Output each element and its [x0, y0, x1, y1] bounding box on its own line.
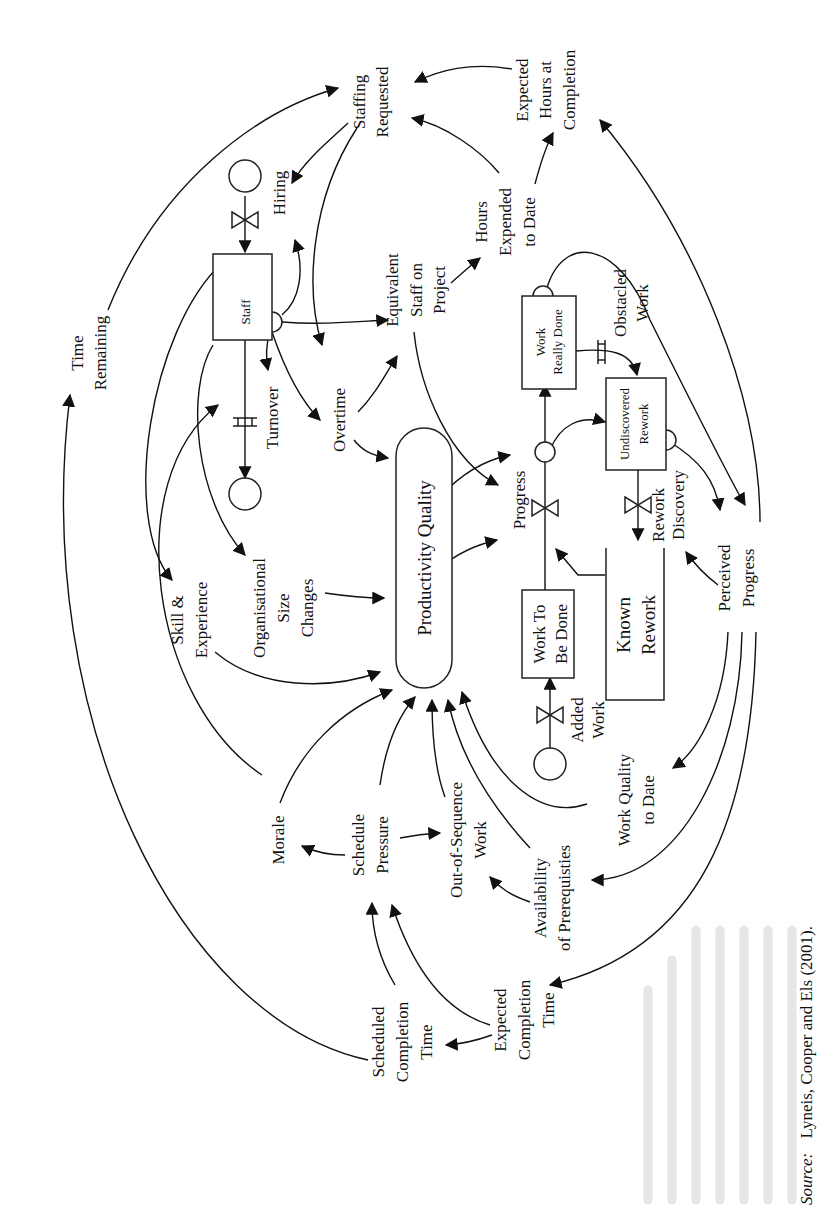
undiscovered-rework-label-1: Undiscovered — [617, 387, 632, 460]
rework-label: Rework — [649, 488, 668, 542]
obstacled-work-label-2: Work — [633, 284, 652, 322]
schedule-pressure-label-2: Pressure — [373, 816, 392, 874]
work-really-done-label-1: Work — [533, 327, 548, 356]
expected-completion-label-2: Completion — [515, 979, 534, 1060]
expected-hours-label-3: Completion — [560, 49, 579, 130]
figure-source-caption: Source: Lyneis, Cooper and Els (2001). — [797, 926, 816, 1205]
hiring-source-cloud-icon — [229, 160, 261, 192]
work-to-be-done-label-1: Work To — [530, 605, 549, 664]
source-label: Source: — [797, 1153, 816, 1205]
skill-experience-label-2: Experience — [192, 582, 211, 658]
hours-expended-label-3: to Date — [520, 197, 539, 247]
scheduled-completion-label-3: Time — [417, 1024, 436, 1059]
svg-text:Source: Lyneis, Cooper a: Source: Lyneis, Cooper and Els (2001). — [797, 926, 816, 1205]
expected-hours-label-2: Hours at — [536, 61, 555, 119]
progress-label: Progress — [510, 471, 529, 530]
discovery-label: Discovery — [669, 470, 688, 540]
work-to-be-done-label-2: Be Done — [552, 604, 571, 664]
equivalent-staff-label-3: Project — [430, 266, 449, 314]
org-size-label-2: Size — [274, 593, 293, 622]
undiscovered-rework-label-2: Rework — [636, 403, 651, 445]
scheduled-completion-label-2: Completion — [393, 1001, 412, 1082]
known-rework-label-2: Rework — [638, 594, 659, 655]
turnover-label: Turnover — [263, 386, 282, 449]
out-of-sequence-label-1: Out-of-Sequence — [447, 782, 466, 898]
staffing-requested-label-2: Requested — [373, 66, 392, 137]
obstacled-work-label-1: Obstacled — [611, 269, 630, 337]
time-remaining-label-2: Remaining — [91, 315, 110, 390]
scheduled-completion-label-1: Scheduled — [369, 1006, 388, 1077]
obstacled-work-valve-icon — [598, 340, 605, 364]
equivalent-staff-label-1: Equivalent — [383, 253, 402, 327]
staff-label: Staff — [238, 299, 253, 325]
hours-expended-label-2: Expended — [496, 188, 515, 256]
added-work-source-cloud-icon — [534, 748, 566, 780]
expected-completion-label-3: Time — [539, 992, 558, 1027]
known-rework-label-1: Known — [613, 597, 634, 653]
progress-converter-icon — [535, 442, 555, 462]
time-remaining-label-1: Time — [68, 335, 87, 370]
skill-experience-label-1: Skill & — [168, 595, 187, 645]
org-size-label-3: Changes — [298, 579, 317, 638]
morale-label: Morale — [269, 815, 288, 864]
work-really-done-label-2: Really Done — [550, 309, 565, 375]
perceived-progress-label-2: Progress — [739, 549, 758, 608]
show-through-text — [648, 930, 792, 1200]
work-really-done-stock — [522, 296, 576, 389]
stock-flow-diagram: Staff Work Really Done Undiscovered Rewo… — [0, 0, 820, 1212]
availability-label-1: Availability — [531, 858, 550, 938]
staff-stock — [213, 254, 272, 340]
staffing-requested-label-1: Staffing — [350, 74, 369, 129]
expected-hours-label-1: Expected — [513, 58, 532, 122]
expected-completion-label-1: Expected — [491, 988, 510, 1052]
schedule-pressure-label-1: Schedule — [349, 814, 368, 876]
hours-expended-label-1: Hours — [472, 201, 491, 243]
work-quality-label-1: Work Quality — [615, 753, 634, 846]
hiring-label: Hiring — [270, 170, 289, 215]
productivity-quality-label: Productivity Quality — [414, 480, 435, 636]
overtime-label: Overtime — [330, 388, 349, 452]
availability-label-2: of Prerequisties — [555, 845, 574, 951]
equivalent-staff-label-2: Staff on — [407, 263, 426, 317]
turnover-sink-cloud-icon — [229, 478, 261, 510]
out-of-sequence-label-2: Work — [471, 821, 490, 859]
perceived-progress-label-1: Perceived — [715, 544, 734, 612]
org-size-label-1: Organisational — [250, 558, 269, 658]
added-work-label-2: Work — [589, 701, 608, 739]
added-work-label-1: Added — [568, 697, 587, 743]
source-citation: Lyneis, Cooper and Els (2001). — [797, 926, 816, 1138]
work-quality-label-2: to Date — [639, 775, 658, 825]
